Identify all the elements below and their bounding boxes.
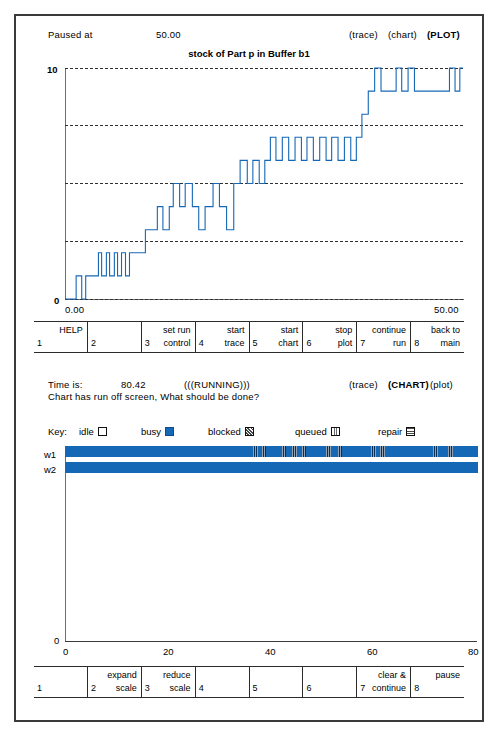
fkey-chart-1[interactable]: 1 [34,667,88,697]
gantt-segment-blocked [371,446,376,457]
chart-run-state: (((RUNNING))) [184,380,250,390]
gantt-segment-blocked [292,446,297,457]
legend-item-repair: repair [378,426,415,437]
gantt-segment-blocked [253,446,258,457]
gantt-segment-blocked [448,446,453,457]
plot-status-time: 50.00 [156,30,181,40]
idle-swatch-icon [98,427,107,436]
fkey-chart-6-num: 6 [306,683,311,693]
fkey-plot-5-line2: chart [278,338,298,348]
gantt-segment-blocked [282,446,287,457]
fkey-chart-5[interactable]: 5 [250,667,304,697]
fkey-plot-7-line1: continue [372,325,406,335]
fkey-plot-1-line1: HELP [59,325,83,335]
fkey-plot-2-num: 2 [91,338,96,348]
plot-status-label: Paused at [48,30,93,40]
gantt-row-label-w1: w1 [44,449,56,460]
fkey-chart-4-num: 4 [199,683,204,693]
fkey-chart-3-line1: reduce [163,670,191,680]
fkey-plot-8-back-to-main[interactable]: 8 back to main [411,322,464,352]
legend-label-repair: repair [378,426,402,437]
gantt-segment-blocked [380,446,385,457]
gantt-row-label-w2: w2 [44,464,56,475]
fkey-plot-7-continue-run[interactable]: 7 continue run [357,322,411,352]
legend-label-busy: busy [141,426,161,437]
plot-function-key-bar: 1 HELP 2 3 set run control 4 start trace… [34,321,464,353]
chart-time-label: Time is: [48,380,83,390]
fkey-plot-1[interactable]: 1 HELP [34,322,88,352]
fkey-chart-2-line2: scale [116,683,137,693]
fkey-plot-3-line1: set run [163,325,191,335]
fkey-plot-7-line2: run [393,338,406,348]
fkey-chart-2-num: 2 [91,683,96,693]
gantt-segment-blocked [326,446,331,457]
fkey-chart-8-num: 8 [414,683,419,693]
chart-mode-chart[interactable]: (CHART) [388,380,429,390]
fkey-plot-2[interactable]: 2 [88,322,142,352]
chart-message: Chart has run off screen, What should be… [48,392,259,402]
fkey-plot-5-start-chart[interactable]: 5 start chart [250,322,304,352]
legend-key-label: Key: [48,426,67,437]
fkey-chart-1-num: 1 [37,683,42,693]
fkey-chart-7-line1: clear & [378,670,406,680]
legend-item-queued: queued [295,426,340,437]
gantt-segment-blocked [302,446,307,457]
fkey-plot-8-num: 8 [414,338,419,348]
fkey-chart-3-num: 3 [145,683,150,693]
legend-label-blocked: blocked [208,426,241,437]
fkey-chart-6[interactable]: 6 [303,667,357,697]
fkey-plot-1-num: 1 [37,338,42,348]
fkey-chart-7-clear-continue[interactable]: 7 clear & continue [357,667,411,697]
fkey-plot-6-num: 6 [306,338,311,348]
plot-panel: Paused at 50.00 (trace) (chart) (PLOT) s… [16,16,482,346]
fkey-plot-3-num: 3 [145,338,150,348]
gantt-xtick-40: 40 [265,646,276,657]
terminal-screen: Paused at 50.00 (trace) (chart) (PLOT) s… [14,14,484,722]
fkey-plot-3-set-run-control[interactable]: 3 set run control [142,322,196,352]
chart-mode-plot[interactable]: (plot) [430,380,453,390]
fkey-plot-4-start-trace[interactable]: 4 start trace [196,322,250,352]
repair-swatch-icon [406,427,415,436]
legend-label-idle: idle [79,426,94,437]
fkey-chart-8-line1: pause [435,670,460,680]
fkey-chart-7-num: 7 [360,683,365,693]
queued-swatch-icon [331,427,340,436]
chart-mode-trace[interactable]: (trace) [349,380,378,390]
fkey-chart-4[interactable]: 4 [196,667,250,697]
fkey-chart-5-num: 5 [253,683,258,693]
plot-mode-chart[interactable]: (chart) [388,30,417,40]
plot-mode-trace[interactable]: (trace) [349,30,378,40]
legend-item-idle: idle [79,426,107,437]
chart-function-key-bar: 1 2 expand scale 3 reduce scale 4 5 [34,666,464,698]
plot-x-right-label: 50.00 [434,305,459,315]
fkey-plot-8-line1: back to [431,325,460,335]
fkey-chart-3-reduce-scale[interactable]: 3 reduce scale [142,667,196,697]
plot-title: stock of Part p in Buffer b1 [16,48,482,59]
chart-time-value: 80.42 [121,380,146,390]
fkey-plot-6-stop-plot[interactable]: 6 stop plot [303,322,357,352]
blocked-swatch-icon [245,427,254,436]
fkey-plot-6-line2: plot [338,338,353,348]
fkey-plot-4-num: 4 [199,338,204,348]
legend-item-busy: busy [141,426,174,437]
fkey-plot-5-line1: start [281,325,299,335]
gantt-xtick-20: 20 [163,646,174,657]
gantt-bar-w1 [65,446,478,457]
fkey-plot-3-line2: control [164,338,191,348]
fkey-plot-5-num: 5 [253,338,258,348]
gridline-0 [65,299,463,300]
fkey-plot-4-line1: start [227,325,245,335]
step-line-series [65,68,463,299]
gantt-segment-blocked [433,446,438,457]
fkey-chart-8-pause[interactable]: 8 pause [411,667,464,697]
fkey-plot-4-line2: trace [224,338,244,348]
gantt-xtick-60: 60 [367,646,378,657]
fkey-plot-7-num: 7 [360,338,365,348]
gantt-bar-w2 [65,462,478,473]
plot-mode-plot[interactable]: (PLOT) [427,30,460,40]
fkey-chart-2-expand-scale[interactable]: 2 expand scale [88,667,142,697]
legend-label-queued: queued [295,426,327,437]
gantt-segment-blocked [338,446,342,457]
plot-y-bottom-label: 0 [54,295,59,306]
chart-panel: Time is: 80.42 (((RUNNING))) (trace) (CH… [16,366,482,721]
